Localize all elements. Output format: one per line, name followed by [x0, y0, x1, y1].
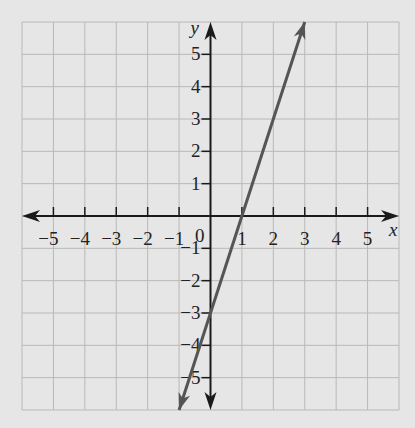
y-tick-label: 3: [191, 108, 201, 129]
x-tick-label: 4: [331, 228, 341, 249]
x-tick-label: 1: [237, 228, 247, 249]
y-axis-label: y: [189, 17, 200, 38]
y-tick-label: 4: [191, 76, 201, 97]
axes: xy: [22, 17, 399, 410]
x-tick-label: 2: [269, 228, 279, 249]
x-axis-label: x: [388, 219, 398, 240]
y-tick-label: −3: [180, 302, 200, 323]
x-tick-label: −2: [133, 228, 153, 249]
y-tick-label: 1: [191, 173, 201, 194]
x-tick-label: −5: [38, 228, 58, 249]
x-tick-label: 5: [363, 228, 373, 249]
x-tick-label: 3: [300, 228, 310, 249]
x-tick-label: −4: [70, 228, 91, 249]
x-tick-label: −3: [101, 228, 121, 249]
y-tick-label: 2: [191, 140, 201, 161]
y-tick-label: −2: [180, 270, 200, 291]
origin-label: 0: [195, 225, 205, 246]
coordinate-plane: xy −5−4−3−2−112345−5−4−3−2−1123450: [0, 0, 415, 428]
y-tick-label: 5: [191, 43, 201, 64]
